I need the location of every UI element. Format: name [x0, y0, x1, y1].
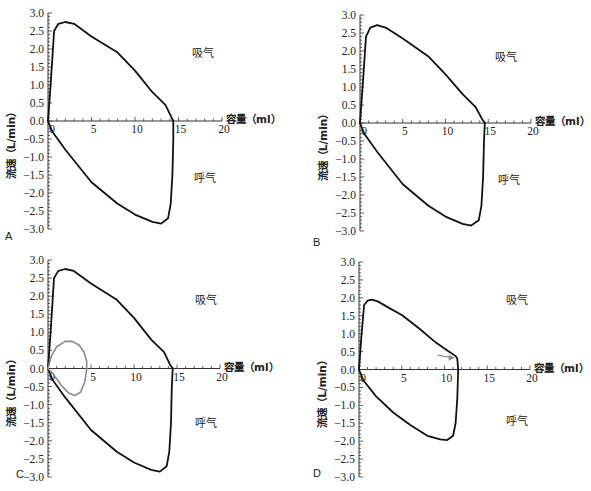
- series-expiration: [360, 123, 485, 226]
- y-tick-label: 2.5: [342, 27, 357, 39]
- expiration-label: 呼气: [498, 173, 520, 187]
- series-inspiration: [48, 22, 173, 121]
- y-tick-label: 0.5: [30, 344, 45, 356]
- y-tick-label: −1.5: [334, 417, 355, 429]
- series-inspiration: [359, 300, 458, 370]
- y-tick-label: 0.0: [342, 117, 357, 129]
- x-tick-label: 10: [130, 371, 142, 383]
- y-tick-label: −1.5: [23, 417, 44, 429]
- y-tick-label: −2.5: [23, 453, 44, 465]
- expiration-label: 呼气: [506, 414, 528, 428]
- x-axis-label: 容量（ml）: [534, 115, 590, 127]
- y-axis-label: 流速（L/min）: [317, 109, 329, 182]
- y-tick-label: −1.0: [23, 399, 44, 411]
- y-axis-label: 流速（L/min）: [5, 107, 17, 180]
- y-tick-label: −3.0: [23, 223, 44, 235]
- y-tick-label: −3.0: [334, 471, 355, 483]
- expiration-label: 呼气: [195, 416, 217, 430]
- x-tick-label: 10: [442, 125, 454, 137]
- y-tick-label: −2.5: [334, 453, 355, 465]
- y-tick-label: −1.5: [23, 169, 44, 181]
- y-tick-label: 2.0: [30, 290, 45, 302]
- y-tick-label: −1.0: [23, 151, 44, 163]
- inspiration-label: 吸气: [506, 293, 528, 307]
- y-tick-label: 3.0: [30, 7, 45, 19]
- y-tick-label: 2.5: [341, 274, 356, 286]
- y-tick-label: −1.0: [335, 153, 356, 165]
- y-tick-label: −1.5: [335, 171, 356, 183]
- series-expiration: [48, 121, 173, 224]
- x-tick-label: 15: [173, 371, 185, 383]
- flow-volume-figure: 3.02.52.01.51.00.50.0−0.5−1.0−1.5−2.0−2.…: [0, 0, 591, 491]
- panel-b: 3.02.52.01.51.00.50.0−0.5−1.0−1.5−2.0−2.…: [313, 9, 590, 248]
- expiration-label: 呼气: [194, 171, 216, 185]
- inspiration-label: 吸气: [195, 293, 217, 307]
- x-axis-label: 容量（ml）: [223, 361, 279, 373]
- y-tick-label: −0.5: [334, 381, 355, 393]
- y-tick-label: 0.0: [30, 115, 45, 127]
- y-tick-label: 1.0: [341, 328, 356, 340]
- y-tick-label: 0.5: [30, 97, 45, 109]
- y-tick-label: 3.0: [341, 256, 356, 268]
- y-tick-label: 1.5: [30, 308, 45, 320]
- y-tick-label: −1.0: [334, 399, 355, 411]
- panel-d: 3.02.52.01.51.00.50.0−0.5−1.0−1.5−2.0−2.…: [313, 256, 589, 483]
- panel-label: A: [5, 230, 13, 242]
- y-tick-label: −2.5: [23, 205, 44, 217]
- x-axis-label: 容量（ml）: [225, 113, 281, 125]
- x-tick-label: 15: [484, 372, 496, 384]
- y-tick-label: −2.0: [23, 187, 44, 199]
- y-tick-label: −2.0: [335, 189, 356, 201]
- x-tick-label: 5: [401, 372, 407, 384]
- inspiration-label: 吸气: [192, 46, 214, 60]
- y-tick-label: 0.5: [342, 99, 357, 111]
- x-tick-label: 10: [131, 123, 143, 135]
- series-inspiration: [360, 25, 485, 123]
- y-tick-label: 2.0: [341, 292, 356, 304]
- y-tick-label: −2.0: [334, 435, 355, 447]
- y-tick-label: 3.0: [342, 9, 357, 21]
- y-tick-label: 0.0: [341, 364, 356, 376]
- panel-a: 3.02.52.01.51.00.50.0−0.5−1.0−1.5−2.0−2.…: [5, 7, 281, 242]
- panel-label: D: [313, 467, 321, 479]
- y-tick-label: 0.5: [341, 346, 356, 358]
- panel-label: B: [313, 236, 320, 248]
- y-tick-label: 3.0: [30, 254, 45, 266]
- y-tick-label: 0.0: [30, 363, 45, 375]
- y-tick-label: 1.5: [342, 63, 357, 75]
- x-tick-label: 10: [441, 372, 453, 384]
- y-tick-label: 2.0: [342, 45, 357, 57]
- series-small-loop-inspiration: [48, 341, 87, 368]
- y-tick-label: 1.5: [30, 61, 45, 73]
- y-tick-label: 2.5: [30, 25, 45, 37]
- series-inspiration: [48, 269, 173, 369]
- y-axis-label: 流速（L/min）: [5, 354, 17, 427]
- x-tick-label: 5: [91, 123, 97, 135]
- x-tick-label: 15: [175, 123, 187, 135]
- x-tick-label: 15: [485, 125, 497, 137]
- inspiration-label: 吸气: [495, 50, 517, 64]
- y-tick-label: 2.0: [30, 43, 45, 55]
- x-axis-label: 容量（ml）: [533, 362, 589, 374]
- y-tick-label: −3.0: [335, 225, 356, 237]
- series-expiration: [48, 369, 173, 472]
- y-tick-label: 1.0: [342, 81, 357, 93]
- panel-label: C: [16, 468, 24, 480]
- y-tick-label: 1.0: [30, 326, 45, 338]
- y-tick-label: −2.5: [335, 207, 356, 219]
- panel-c: 3.02.52.01.51.00.50.0−0.5−1.0−1.5−2.0−2.…: [5, 254, 279, 483]
- y-tick-label: −0.5: [23, 133, 44, 145]
- y-tick-label: 1.5: [341, 310, 356, 322]
- x-tick-label: 5: [90, 371, 96, 383]
- y-tick-label: −0.5: [335, 135, 356, 147]
- y-axis-label: 流速（L/min）: [316, 355, 328, 428]
- y-tick-label: 2.5: [30, 272, 45, 284]
- y-tick-label: 1.0: [30, 79, 45, 91]
- y-tick-label: −2.0: [23, 435, 44, 447]
- x-tick-label: 5: [402, 125, 408, 137]
- y-tick-label: −3.0: [23, 471, 44, 483]
- y-tick-label: −0.5: [23, 381, 44, 393]
